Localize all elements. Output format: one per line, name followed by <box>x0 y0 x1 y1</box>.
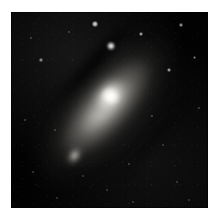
figure-page <box>0 0 220 219</box>
astronomical-image-plate <box>11 12 208 208</box>
galaxy-nucleus <box>101 87 120 106</box>
spiral-galaxy <box>11 12 208 208</box>
dust-lane-lower <box>111 94 195 185</box>
